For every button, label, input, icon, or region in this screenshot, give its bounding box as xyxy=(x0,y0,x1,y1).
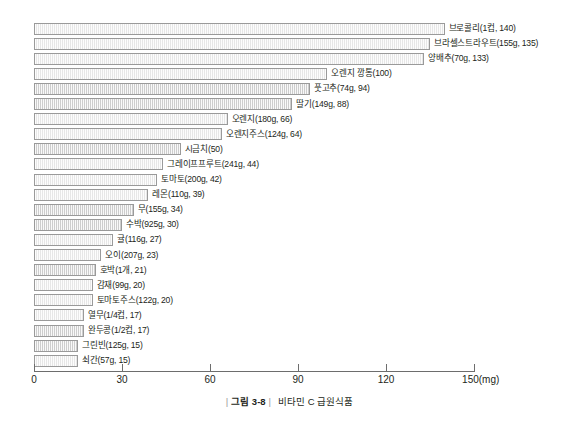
x-axis-tick xyxy=(474,364,475,372)
bar-row: 오이(207g, 23) xyxy=(34,249,158,262)
bar xyxy=(34,249,101,261)
bar xyxy=(34,143,181,155)
bar-row: 양배추(70g, 133) xyxy=(34,52,489,65)
bar xyxy=(34,325,84,337)
caption-figure-number: 그림 3-8 xyxy=(231,396,265,407)
bar-row: 브로콜리(1컵, 140) xyxy=(34,22,516,35)
x-axis-tick xyxy=(298,364,299,372)
bar xyxy=(34,174,157,186)
bar xyxy=(34,279,93,291)
bar-data-label: 오렌지(180g, 66) xyxy=(232,115,293,124)
bar-data-label: 오렌지주스(124g, 64) xyxy=(226,130,302,139)
figure-caption: |그림 3-8|비타민 C 급원식품 xyxy=(0,394,576,408)
bar xyxy=(34,355,78,367)
bar xyxy=(34,294,93,306)
x-axis-tick-label: 120 xyxy=(378,374,395,385)
bar-row: 무(155g, 34) xyxy=(34,203,183,216)
bar xyxy=(34,219,122,231)
bar-row: 오렌지(180g, 66) xyxy=(34,113,292,126)
bar-data-label: 호박(1개, 21) xyxy=(100,266,147,275)
bar-row: 완두콩(1/2컵, 17) xyxy=(34,324,149,337)
bar-row: 시금치(50) xyxy=(34,143,223,156)
bar-data-label: 그린빈(125g, 15) xyxy=(82,341,143,350)
bar-row: 호박(1개, 21) xyxy=(34,264,146,277)
x-axis-tick xyxy=(386,364,387,372)
bar-row: 레몬(110g, 39) xyxy=(34,188,205,201)
bar-row: 그레이프프루트(241g, 44) xyxy=(34,158,259,171)
bar-data-label: 그레이프프루트(241g, 44) xyxy=(167,160,259,169)
bar-data-label: 브로콜리(1컵, 140) xyxy=(449,24,516,33)
x-axis-tick-label: 90 xyxy=(292,374,303,385)
caption-rule-left: | xyxy=(223,396,231,407)
bar-data-label: 오이(207g, 23) xyxy=(105,251,158,260)
caption-rule-right: | xyxy=(266,396,274,407)
bar-data-label: 브라셀스트라우트(155g, 135) xyxy=(434,39,538,48)
bar xyxy=(34,128,222,140)
x-axis-tick-label: 30 xyxy=(116,374,127,385)
bar-data-label: 시금치(50) xyxy=(185,145,223,154)
bar-data-label: 풋고추(74g, 94) xyxy=(314,84,370,93)
caption-title: 비타민 C 급원식품 xyxy=(274,396,353,407)
bar-row: 귤(116g, 27) xyxy=(34,233,162,246)
bar-data-label: 레몬(110g, 39) xyxy=(152,190,204,199)
bar-row: 수박(925g, 30) xyxy=(34,218,179,231)
bar xyxy=(34,68,327,80)
bar-data-label: 수박(925g, 30) xyxy=(126,220,179,229)
bar xyxy=(34,189,148,201)
bar-data-label: 오렌지 깡통(100) xyxy=(331,69,391,78)
bar xyxy=(34,340,78,352)
bar xyxy=(34,158,163,170)
bar xyxy=(34,234,113,246)
bar xyxy=(34,98,292,110)
bar-row: 풋고추(74g, 94) xyxy=(34,82,370,95)
x-axis-line xyxy=(34,371,474,372)
bar-chart-plot-area: 브로콜리(1컵, 140)브라셀스트라우트(155g, 135)양배추(70g,… xyxy=(0,0,576,388)
bar-row: 열무(1/4컵, 17) xyxy=(34,309,141,322)
bar-row: 오렌지주스(124g, 64) xyxy=(34,128,302,141)
bar-row: 토마토주스(122g, 20) xyxy=(34,294,173,307)
bar-data-label: 토마토주스(122g, 20) xyxy=(97,296,173,305)
x-axis-tick xyxy=(34,364,35,372)
bar-row: 브라셀스트라우트(155g, 135) xyxy=(34,37,538,50)
x-axis-tick-label: 150(mg) xyxy=(462,374,499,385)
bar-data-label: 완두콩(1/2컵, 17) xyxy=(88,326,149,335)
bar-row: 감재(99g, 20) xyxy=(34,279,145,292)
bar-data-label: 귤(116g, 27) xyxy=(117,235,161,244)
bar-row: 쇠간(57g, 15) xyxy=(34,354,130,367)
x-axis-tick xyxy=(210,364,211,372)
bar-row: 오렌지 깡통(100) xyxy=(34,67,392,80)
bar xyxy=(34,264,96,276)
bar-data-label: 무(155g, 34) xyxy=(138,205,183,214)
figure-vitamin-c-chart: 브로콜리(1컵, 140)브라셀스트라우트(155g, 135)양배추(70g,… xyxy=(0,0,576,423)
bar-data-label: 열무(1/4컵, 17) xyxy=(88,311,142,320)
x-axis-tick-label: 60 xyxy=(204,374,215,385)
bar-row: 딸기(149g, 88) xyxy=(34,98,349,111)
x-axis-tick-label: 0 xyxy=(31,374,37,385)
bar xyxy=(34,38,430,50)
bar xyxy=(34,83,310,95)
bar-data-label: 감재(99g, 20) xyxy=(97,281,145,290)
bar xyxy=(34,204,134,216)
bar-row: 토마토(200g, 42) xyxy=(34,173,222,186)
bar xyxy=(34,309,84,321)
bar xyxy=(34,113,228,125)
x-axis-tick xyxy=(122,364,123,372)
bar-data-label: 토마토(200g, 42) xyxy=(161,175,222,184)
bar-data-label: 딸기(149g, 88) xyxy=(296,100,349,109)
bar xyxy=(34,23,445,35)
bar-data-label: 양배추(70g, 133) xyxy=(428,54,489,63)
bar xyxy=(34,53,424,65)
bar-row: 그린빈(125g, 15) xyxy=(34,339,143,352)
